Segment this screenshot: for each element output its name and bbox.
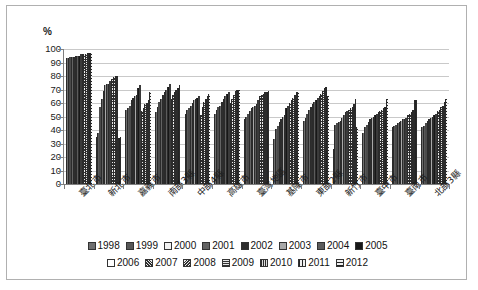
legend-item-2002[interactable]: 2002 [241,238,273,254]
legend-swatch-icon [183,259,191,267]
x-axis-tick-mark [360,184,361,189]
x-axis-tick-mark [94,184,95,189]
x-axis-tick-mark [271,184,272,189]
legend-label: 2009 [232,257,254,268]
legend-swatch-icon [298,259,306,267]
legend-item-2010[interactable]: 2010 [260,255,292,271]
legend-label: 2003 [289,240,311,251]
legend-swatch-icon [241,242,249,250]
bar-group [155,49,180,184]
legend-swatch-icon [355,242,363,250]
legend-swatch-icon [88,242,96,250]
x-axis-tick-mark [390,184,391,189]
bar [416,100,418,184]
legend-swatch-icon [145,259,153,267]
x-axis-tick-mark [182,184,183,189]
legend-swatch-icon [336,259,344,267]
chart-area: % 0102030405060708090100 臺北市新北市嘉義市南部3縣中部… [7,6,468,279]
bar [386,99,388,184]
legend-item-2001[interactable]: 2001 [202,238,234,254]
legend-item-1999[interactable]: 1999 [126,238,158,254]
legend-label: 2000 [174,240,196,251]
bar-group [244,49,269,184]
chart-frame: % 0102030405060708090100 臺北市新北市嘉義市南部3縣中部… [6,5,467,280]
bar [90,53,92,184]
bar [268,91,270,184]
bar [297,92,299,184]
x-axis-tick-mark [212,184,213,189]
bar [238,90,240,185]
legend-item-2008[interactable]: 2008 [183,255,215,271]
x-axis-tick-mark [331,184,332,189]
y-axis-tick-mark [58,144,63,145]
legend-label: 1999 [136,240,158,251]
x-axis-tick-mark [64,184,65,189]
y-axis-tick-mark [58,63,63,64]
bar-group [96,49,121,184]
legend-swatch-icon [222,259,230,267]
legend-label: 2008 [193,257,215,268]
legend-item-2005[interactable]: 2005 [355,238,387,254]
bar-group [185,49,210,184]
y-axis-tick-mark [58,117,63,118]
legend-label: 2012 [346,257,368,268]
legend-label: 2004 [327,240,349,251]
bar-group [125,49,150,184]
bar-group [421,49,446,184]
bar-group [392,49,417,184]
legend-label: 2002 [251,240,273,251]
bar-group [303,49,328,184]
chart-legend: 19981999200020012002200320042005 2006200… [7,237,468,271]
bar-group [214,49,239,184]
y-axis-tick-mark [58,103,63,104]
x-axis-tick-mark [153,184,154,189]
legend-item-2007[interactable]: 2007 [145,255,177,271]
legend-swatch-icon [202,242,210,250]
legend-item-2009[interactable]: 2009 [222,255,254,271]
bar [327,96,329,184]
y-axis-tick-mark [58,171,63,172]
y-axis-tick-mark [58,90,63,91]
x-axis-tick-mark [301,184,302,189]
legend-label: 2007 [155,257,177,268]
bar [179,85,181,184]
y-axis-tick-mark [58,76,63,77]
legend-swatch-icon [126,242,134,250]
y-axis-tick-mark [58,184,63,185]
legend-label: 2011 [308,257,330,268]
bar [445,99,447,184]
x-axis-tick-mark [449,184,450,189]
legend-item-2004[interactable]: 2004 [317,238,349,254]
legend-swatch-icon [260,259,268,267]
legend-label: 2010 [270,257,292,268]
legend-item-2012[interactable]: 2012 [336,255,368,271]
bar-group [362,49,387,184]
legend-item-2006[interactable]: 2006 [107,255,139,271]
legend-swatch-icon [279,242,287,250]
legend-item-2000[interactable]: 2000 [164,238,196,254]
legend-label: 2005 [365,240,387,251]
y-axis-tick-mark [58,49,63,50]
bar-group [66,49,91,184]
legend-label: 1998 [98,240,120,251]
legend-swatch-icon [107,259,115,267]
legend-label: 2006 [117,257,139,268]
legend-row-2: 2006200720082009201020112012 [7,254,468,271]
legend-item-2003[interactable]: 2003 [279,238,311,254]
bar-group [333,49,358,184]
legend-label: 2001 [212,240,234,251]
legend-row-1: 19981999200020012002200320042005 [7,237,468,254]
legend-item-1998[interactable]: 1998 [88,238,120,254]
legend-swatch-icon [317,242,325,250]
x-axis-tick-mark [123,184,124,189]
y-axis-tick-mark [58,157,63,158]
legend-swatch-icon [164,242,172,250]
bar [149,92,151,184]
bar-group [273,49,298,184]
x-axis-tick-mark [419,184,420,189]
legend-item-2011[interactable]: 2011 [298,255,330,271]
bar-groups [64,49,449,184]
x-axis-tick-mark [242,184,243,189]
bar [208,94,210,184]
y-axis-tick-mark [58,130,63,131]
